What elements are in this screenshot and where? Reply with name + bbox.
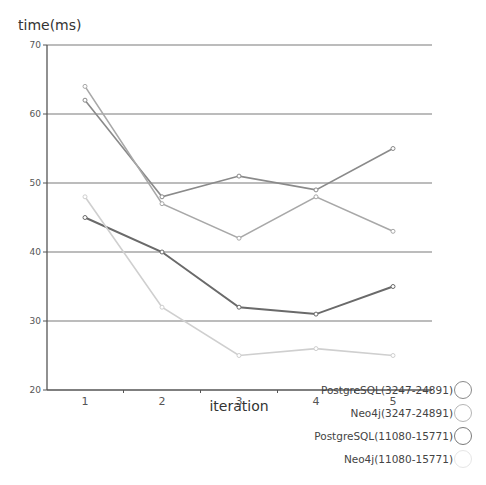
series-0 bbox=[83, 98, 395, 199]
legend-label: Neo4j(3247-24891) bbox=[351, 407, 453, 419]
y-axis-ticks: 203040506070 bbox=[30, 40, 47, 395]
data-point bbox=[83, 98, 87, 102]
data-point bbox=[314, 347, 318, 351]
data-point bbox=[83, 216, 87, 220]
legend-swatch-icon bbox=[454, 381, 472, 399]
y-tick-label: 40 bbox=[30, 247, 42, 257]
legend-swatch-icon bbox=[454, 450, 472, 468]
data-point bbox=[391, 285, 395, 289]
data-point bbox=[314, 188, 318, 192]
legend-item[interactable]: PostgreSQL(11080-15771) bbox=[314, 424, 472, 447]
series-3 bbox=[83, 195, 395, 358]
y-tick-label: 30 bbox=[30, 316, 42, 326]
legend-swatch-icon bbox=[454, 404, 472, 422]
data-point bbox=[237, 174, 241, 178]
x-tick-label: 1 bbox=[82, 395, 89, 408]
data-point bbox=[83, 84, 87, 88]
legend-item[interactable]: Neo4j(11080-15771) bbox=[314, 447, 472, 470]
data-point bbox=[237, 236, 241, 240]
x-tick-label: 2 bbox=[159, 395, 166, 408]
legend-label: Neo4j(11080-15771) bbox=[344, 453, 453, 465]
y-tick-label: 60 bbox=[30, 109, 42, 119]
y-axis-label: time(ms) bbox=[18, 17, 82, 33]
data-point bbox=[391, 229, 395, 233]
data-point bbox=[83, 195, 87, 199]
series-2 bbox=[83, 216, 395, 317]
series-1 bbox=[83, 84, 395, 240]
y-tick-label: 50 bbox=[30, 178, 42, 188]
axes bbox=[47, 45, 432, 390]
x-tick-label: 3 bbox=[236, 395, 243, 408]
legend-label: PostgreSQL(3247-24891) bbox=[321, 384, 453, 396]
data-point bbox=[391, 147, 395, 151]
y-tick-label: 70 bbox=[30, 40, 42, 50]
data-point bbox=[314, 195, 318, 199]
data-point bbox=[160, 195, 164, 199]
data-point bbox=[160, 202, 164, 206]
legend-item[interactable]: Neo4j(3247-24891) bbox=[314, 401, 472, 424]
legend-item[interactable]: PostgreSQL(3247-24891) bbox=[314, 378, 472, 401]
grid-lines bbox=[47, 45, 432, 321]
data-point bbox=[314, 312, 318, 316]
data-point bbox=[237, 305, 241, 309]
legend: PostgreSQL(3247-24891)Neo4j(3247-24891)P… bbox=[314, 378, 472, 470]
data-point bbox=[391, 354, 395, 358]
y-tick-label: 20 bbox=[30, 385, 42, 395]
data-point bbox=[237, 354, 241, 358]
legend-label: PostgreSQL(11080-15771) bbox=[314, 430, 453, 442]
data-point bbox=[160, 250, 164, 254]
series-lines bbox=[83, 84, 395, 357]
data-point bbox=[160, 305, 164, 309]
legend-swatch-icon bbox=[454, 427, 472, 445]
